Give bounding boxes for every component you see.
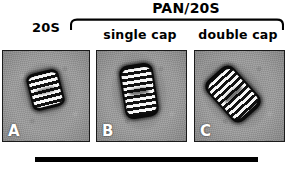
scale-bar: [35, 157, 258, 162]
micrograph-panel-c: C: [194, 50, 285, 142]
group-title: PAN/20S: [140, 0, 232, 17]
panel-letter-a: A: [8, 123, 20, 140]
column-label-20s: 20S: [12, 20, 80, 36]
panel-letter-b: B: [102, 123, 113, 140]
micrograph-panel-a: A: [2, 50, 90, 142]
panel-letter-c: C: [200, 123, 211, 140]
column-label-double-cap: double cap: [190, 27, 286, 42]
particle-20s: [25, 68, 66, 113]
column-label-single-cap: single cap: [93, 27, 187, 42]
particle-single-cap: [118, 62, 160, 121]
em-figure: PAN/20S 20S single cap double cap A: [0, 0, 287, 170]
micrograph-panel-b: B: [96, 50, 187, 142]
